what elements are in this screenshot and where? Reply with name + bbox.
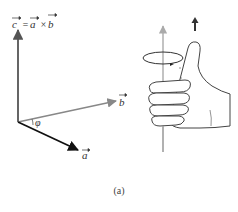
angle-phi-label: φ	[35, 117, 41, 128]
equation-b: b	[48, 18, 54, 30]
right-hand-rule-illustration	[143, 17, 230, 152]
hand-icon	[149, 42, 230, 128]
vector-b-label: b	[119, 96, 125, 108]
equation-c: c	[12, 18, 17, 30]
equation-label: c = a × b	[12, 14, 57, 31]
cross-product-right-hand-rule-figure: c = a × b b a φ	[0, 0, 238, 212]
vector-a-arrow	[18, 122, 78, 150]
equation-a: a	[30, 18, 36, 30]
angle-phi-arc	[32, 119, 33, 125]
thumb-direction-arrow-icon	[192, 17, 199, 31]
figure-caption: (a)	[113, 185, 124, 197]
vector-a-label: a	[82, 149, 88, 161]
equation-times: ×	[40, 19, 47, 30]
vector-b-arrow	[18, 101, 116, 122]
equation-equals: =	[22, 19, 29, 30]
vector-diagram: c = a × b b a φ	[12, 14, 127, 162]
